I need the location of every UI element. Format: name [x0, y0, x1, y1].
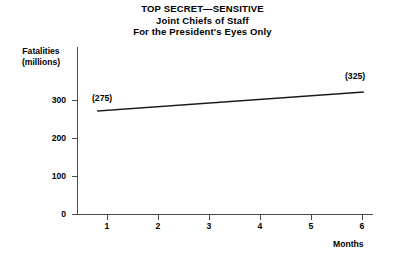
series-line-fatalities	[0, 0, 405, 262]
data-point-label-end: (325)	[345, 71, 365, 81]
data-point-label-start: (275)	[92, 93, 112, 103]
line-chart: Fatalities (millions) Months 300 200 100…	[0, 0, 405, 262]
